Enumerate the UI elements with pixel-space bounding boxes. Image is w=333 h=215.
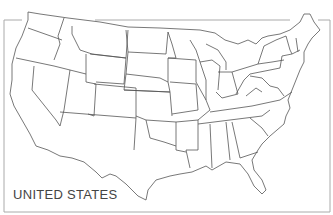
- map-title: UNITED STATES: [13, 187, 118, 202]
- us-map: [0, 0, 333, 215]
- state-outlines: [10, 12, 320, 200]
